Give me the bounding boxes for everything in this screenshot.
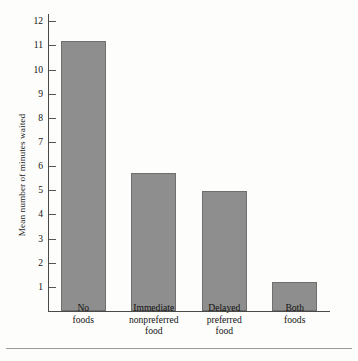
category-label-line: No	[48, 302, 119, 314]
category-label-1: Nofoods	[48, 302, 119, 325]
y-tick-mark	[49, 118, 56, 119]
category-label-line: nonpreferred	[119, 314, 190, 326]
y-tick-mark	[49, 239, 56, 240]
bar-1	[61, 41, 106, 311]
bar-chart-figure: Mean number of minutes waited 1234567891…	[0, 0, 358, 361]
y-tick-label: 10	[33, 65, 43, 75]
bottom-rule	[6, 348, 352, 349]
y-tick-label: 2	[38, 258, 43, 268]
category-label-line: foods	[260, 314, 331, 326]
y-tick-label: 7	[38, 137, 43, 147]
plot-area: 123456789101112	[48, 14, 330, 312]
y-tick-mark	[49, 263, 56, 264]
y-axis-line	[48, 14, 49, 312]
y-tick-mark	[49, 287, 56, 288]
y-tick-label: 1	[38, 282, 43, 292]
y-tick-mark	[49, 21, 56, 22]
category-label-4: Bothfoods	[260, 302, 331, 325]
y-tick-label: 11	[34, 40, 43, 50]
category-label-line: preferred	[189, 314, 260, 326]
y-tick-mark	[49, 142, 56, 143]
y-tick-label: 5	[38, 185, 43, 195]
category-label-2: Immediatenonpreferredfood	[119, 302, 190, 337]
y-tick-mark	[49, 45, 56, 46]
y-tick-label: 4	[38, 209, 43, 219]
bar-3	[202, 191, 247, 311]
y-tick-label: 9	[38, 89, 43, 99]
category-label-line: Delayed	[189, 302, 260, 314]
category-label-line: Immediate	[119, 302, 190, 314]
y-tick-mark	[49, 166, 56, 167]
category-label-line: foods	[48, 314, 119, 326]
y-tick-mark	[49, 70, 56, 71]
y-tick-mark	[49, 214, 56, 215]
y-tick-label: 6	[38, 161, 43, 171]
category-label-line: Both	[260, 302, 331, 314]
category-label-line: food	[119, 325, 190, 337]
y-tick-mark	[49, 94, 56, 95]
y-tick-label: 8	[38, 113, 43, 123]
y-tick-label: 12	[33, 16, 43, 26]
category-label-line: food	[189, 325, 260, 337]
y-tick-label: 3	[38, 234, 43, 244]
bar-2	[131, 173, 176, 311]
y-axis-title: Mean number of minutes waited	[17, 75, 27, 275]
category-label-3: Delayedpreferredfood	[189, 302, 260, 337]
y-tick-mark	[49, 190, 56, 191]
